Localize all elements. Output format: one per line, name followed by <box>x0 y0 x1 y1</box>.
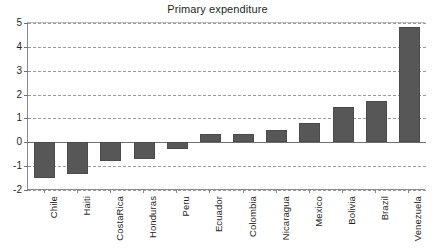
x-axis-label-mexico: Mexico <box>313 196 324 227</box>
x-axis-label-haiti: Haiti <box>81 196 92 216</box>
x-axis-label-brazil: Brazil <box>379 196 390 220</box>
y-axis-label-0: 0 <box>0 136 22 147</box>
gridline-5 <box>28 23 426 24</box>
x-tick-haiti <box>77 189 78 193</box>
chart-figure: Primary expenditure -2-1012345 ChileHait… <box>0 0 435 250</box>
x-axis-label-costarica: CostaRica <box>114 196 125 241</box>
x-axis-label-bolivia: Bolivia <box>346 196 357 225</box>
bar-venezuela <box>399 27 420 143</box>
x-tick-ecuador <box>209 189 210 193</box>
bar-haiti <box>67 142 88 174</box>
bar-mexico <box>299 123 320 142</box>
gridline--2 <box>28 190 426 191</box>
y-axis-label--2: -2 <box>0 184 22 195</box>
x-tick-venezuela <box>408 189 409 193</box>
x-tick-bolivia <box>342 189 343 193</box>
y-tick-0 <box>24 142 28 143</box>
gridline-2 <box>28 95 426 96</box>
x-axis-label-colombia: Colombia <box>247 196 258 237</box>
y-axis-label--1: -1 <box>0 160 22 171</box>
y-tick--2 <box>24 190 28 191</box>
plot-area <box>27 22 425 189</box>
x-axis-line <box>27 189 425 190</box>
y-tick-2 <box>24 95 28 96</box>
x-axis-label-peru: Peru <box>180 196 191 216</box>
y-tick--1 <box>24 166 28 167</box>
y-tick-1 <box>24 118 28 119</box>
bar-peru <box>167 142 188 149</box>
x-tick-mexico <box>309 189 310 193</box>
x-tick-costarica <box>110 189 111 193</box>
x-axis-label-venezuela: Venezuela <box>412 196 423 241</box>
x-tick-chile <box>44 189 45 193</box>
y-axis-label-1: 1 <box>0 112 22 123</box>
gridline-4 <box>28 47 426 48</box>
y-tick-4 <box>24 47 28 48</box>
bar-colombia <box>233 134 254 142</box>
y-axis-label-2: 2 <box>0 88 22 99</box>
bar-chile <box>34 142 55 178</box>
gridline-3 <box>28 71 426 72</box>
x-tick-honduras <box>143 189 144 193</box>
bar-ecuador <box>200 134 221 142</box>
x-axis-label-nicaragua: Nicaragua <box>280 196 291 240</box>
x-tick-brazil <box>375 189 376 193</box>
x-tick-nicaragua <box>276 189 277 193</box>
x-tick-peru <box>176 189 177 193</box>
bar-brazil <box>366 101 387 143</box>
y-tick-5 <box>24 23 28 24</box>
y-axis-label-4: 4 <box>0 40 22 51</box>
bar-nicaragua <box>266 130 287 142</box>
x-axis-label-ecuador: Ecuador <box>213 196 224 232</box>
y-axis-label-5: 5 <box>0 17 22 28</box>
x-tick-colombia <box>243 189 244 193</box>
y-axis-label-3: 3 <box>0 64 22 75</box>
bar-honduras <box>134 142 155 159</box>
x-axis-label-honduras: Honduras <box>147 196 158 238</box>
bar-costarica <box>100 142 121 160</box>
chart-title: Primary expenditure <box>0 3 435 15</box>
x-axis-label-chile: Chile <box>48 196 59 218</box>
bar-bolivia <box>333 107 354 143</box>
y-tick-3 <box>24 71 28 72</box>
